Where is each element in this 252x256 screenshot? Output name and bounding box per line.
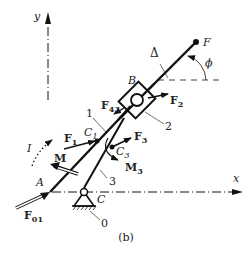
link-2-leader: [145, 112, 164, 124]
x-axis-arrow-icon: [232, 189, 243, 195]
x-axis-label: x: [233, 172, 240, 185]
force-f3-label: F3: [134, 130, 148, 145]
force-f1-label: F1: [64, 132, 77, 147]
joint-b: [131, 94, 143, 106]
force-f2-label: F2: [170, 94, 183, 109]
point-f-label: F: [202, 36, 211, 49]
y-axis-label: y: [33, 10, 41, 23]
point-c-label: C: [97, 193, 106, 206]
link-3-label: 3: [109, 175, 116, 188]
link-1-leader: [93, 118, 106, 132]
figure-caption: (b): [118, 231, 134, 244]
point-c1-label: C1: [84, 126, 98, 141]
angle-phi-label: ϕ: [205, 57, 213, 70]
angle-arc: [188, 56, 206, 80]
link-3-leader: [100, 170, 107, 178]
rotation-i-arrow: [32, 140, 52, 166]
ground-leader: [90, 211, 100, 220]
link-1-label: 1: [86, 107, 93, 120]
rotation-i-label: I: [26, 142, 32, 155]
rod-delta-label: Δ: [150, 46, 159, 60]
force-f01-label: F01: [24, 209, 43, 224]
link-2-label: 2: [165, 120, 172, 133]
point-a-label: A: [35, 176, 44, 189]
ground-label: 0: [101, 217, 108, 230]
mechanism-diagram: y x ϕ F Δ B 2 1 F43 F2 F1 C1 F3 C3: [0, 0, 252, 256]
moment-m-label: M: [54, 152, 66, 165]
point-f-dot: [193, 39, 199, 45]
point-b-label: B: [127, 74, 136, 87]
point-c3-label: C3: [116, 145, 130, 160]
moment-m3-label: M3: [125, 161, 143, 176]
y-axis-arrow-icon: [45, 12, 51, 24]
y-axis: y: [33, 10, 51, 100]
